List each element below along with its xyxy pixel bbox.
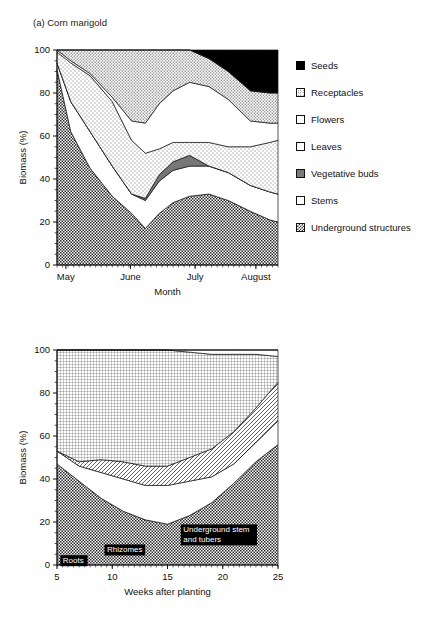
- x-tick-label: May: [57, 271, 75, 282]
- legend-swatch-icon: [296, 61, 305, 70]
- legend-label: Leaves: [311, 142, 342, 152]
- x-tick-label: 20: [217, 571, 228, 582]
- legend-item: Flowers: [296, 106, 411, 133]
- jerusalem-artichoke-area-chart: 020406080100510152025Weeks after plantin…: [0, 310, 448, 617]
- legend-item: Underground structures: [296, 214, 411, 241]
- legend-swatch-icon: [296, 142, 305, 151]
- y-tick-label: 100: [34, 344, 50, 355]
- legend-label: Underground structures: [311, 223, 411, 233]
- legend-swatch-icon: [296, 115, 305, 124]
- y-tick-label: 60: [39, 130, 50, 141]
- y-tick-label: 60: [39, 430, 50, 441]
- legend-corn-marigold: SeedsReceptaclesFlowersLeavesVegetative …: [296, 52, 411, 241]
- x-tick-label: 15: [162, 571, 173, 582]
- plot-annotation: Rhizomes: [105, 544, 146, 555]
- legend-item: Leaves: [296, 133, 411, 160]
- y-tick-label: 20: [39, 516, 50, 527]
- x-tick-label: 25: [273, 571, 284, 582]
- plot-annotation-text: Roots: [63, 556, 84, 565]
- plot-annotation-text: Underground stem: [183, 525, 250, 534]
- legend-swatch-icon: [296, 88, 305, 97]
- legend-label: Seeds: [311, 61, 338, 71]
- chart-panel-jerusalem-artichoke: (b) Jerusalem artichoke 0204060801005101…: [0, 310, 448, 617]
- plot-annotation-text: and tubers: [183, 535, 221, 544]
- legend-item: Vegetative buds: [296, 160, 411, 187]
- legend-label: Stems: [311, 196, 338, 206]
- y-tick-label: 0: [45, 259, 50, 270]
- y-tick-label: 100: [34, 44, 50, 55]
- x-axis-title: Weeks after planting: [124, 586, 210, 597]
- legend-swatch-icon: [296, 169, 305, 178]
- legend-item: Receptacles: [296, 79, 411, 106]
- chart-panel-corn-marigold: (a) Corn marigold 020406080100MayJuneJul…: [0, 0, 448, 310]
- plot-annotation-text: Rhizomes: [107, 545, 143, 554]
- y-tick-label: 80: [39, 87, 50, 98]
- legend-label: Vegetative buds: [311, 169, 379, 179]
- legend-item: Seeds: [296, 52, 411, 79]
- y-tick-label: 20: [39, 216, 50, 227]
- x-axis-title: Month: [154, 286, 180, 297]
- legend-item: Stems: [296, 187, 411, 214]
- plot-annotation: Roots: [60, 555, 87, 566]
- x-tick-label: 5: [54, 571, 59, 582]
- y-tick-label: 80: [39, 387, 50, 398]
- y-axis-title: Biomass (%): [17, 131, 28, 185]
- x-tick-label: July: [187, 271, 204, 282]
- x-tick-label: June: [120, 271, 141, 282]
- x-tick-label: August: [241, 271, 271, 282]
- legend-swatch-icon: [296, 223, 305, 232]
- y-axis-title: Biomass (%): [17, 431, 28, 485]
- plot-annotation: Underground stemand tubers: [181, 524, 257, 545]
- legend-swatch-icon: [296, 196, 305, 205]
- legend-label: Flowers: [311, 115, 344, 125]
- x-tick-label: 10: [107, 571, 118, 582]
- y-tick-label: 40: [39, 473, 50, 484]
- y-tick-label: 0: [45, 559, 50, 570]
- y-tick-label: 40: [39, 173, 50, 184]
- legend-label: Receptacles: [311, 88, 363, 98]
